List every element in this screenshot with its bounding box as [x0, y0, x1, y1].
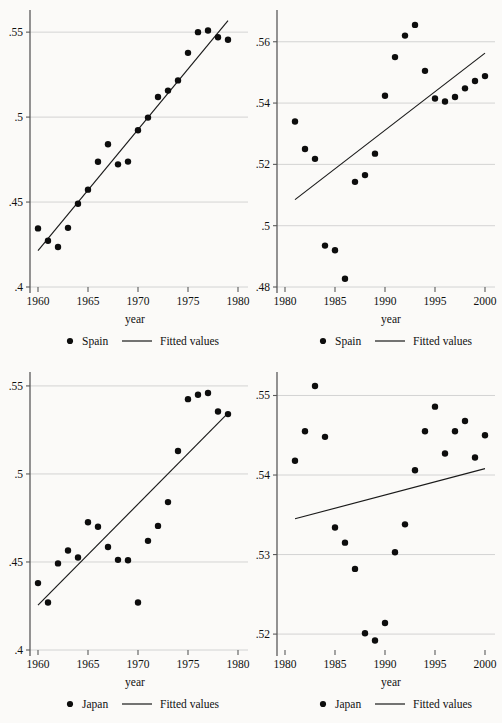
fitted-values-line [38, 413, 228, 605]
data-point [472, 78, 478, 84]
data-point [422, 68, 428, 74]
data-point [85, 519, 91, 525]
data-point [175, 448, 181, 454]
data-point [452, 428, 458, 434]
panel-top-left-svg: .4.45.5.55 19601965197019751980 year Spa… [0, 0, 251, 360]
data-point [115, 557, 121, 563]
xtick-label: 1990 [374, 295, 397, 307]
data-point [482, 432, 488, 438]
ytick-labels-bottom-right: .52.53.54.55 [256, 389, 271, 640]
data-point [462, 85, 468, 91]
legend-marker-icon [67, 701, 73, 707]
data-point [155, 523, 161, 529]
data-point [312, 156, 318, 162]
xtick-label: 1980 [274, 658, 297, 670]
data-point [215, 408, 221, 414]
data-point [145, 538, 151, 544]
data-point [382, 93, 388, 99]
data-point [205, 390, 211, 396]
legend-marker-icon [320, 338, 326, 344]
xtick-label: 1980 [227, 295, 250, 307]
data-point [185, 50, 191, 56]
fitline-top-left [38, 21, 228, 251]
legend-fit-label: Fitted values [160, 335, 220, 347]
xaxis-title-top-left: year [125, 313, 145, 326]
data-point [362, 172, 368, 178]
data-point [95, 159, 101, 165]
data-point [225, 411, 231, 417]
data-point [452, 94, 458, 100]
data-point [442, 450, 448, 456]
data-point [322, 242, 328, 248]
data-point [175, 77, 181, 83]
data-point [35, 225, 41, 231]
data-point [442, 98, 448, 104]
data-point [105, 544, 111, 550]
xtick-label: 2000 [474, 658, 497, 670]
ytick-label: .5 [14, 468, 23, 480]
xtick-label: 1965 [77, 295, 100, 307]
xtick-label: 1985 [324, 658, 347, 670]
ytick-label: .53 [256, 549, 271, 561]
data-point [215, 34, 221, 40]
legend-fit-label: Fitted values [160, 698, 220, 710]
datapoints-top-right [292, 22, 488, 282]
ytick-label: .54 [256, 97, 271, 109]
data-point [35, 580, 41, 586]
panel-top-right: .48.5.52.54.56 19801985199019952000 year… [251, 0, 502, 360]
ytick-label: .45 [9, 196, 24, 208]
xtick-label: 1995 [424, 295, 447, 307]
ytick-label: .55 [9, 26, 24, 38]
data-point [65, 225, 71, 231]
datapoints-bottom-left [35, 390, 231, 606]
data-point [55, 560, 61, 566]
legend-top-left: Spain Fitted values [67, 335, 220, 348]
data-point [352, 566, 358, 572]
xaxis-title-bottom-right: year [381, 676, 401, 689]
legend-series-label: Spain [82, 335, 108, 348]
panel-bottom-left-svg: .4.45.5.55 19601965197019751980 year Jap… [0, 360, 251, 723]
data-point [205, 27, 211, 33]
legend-bottom-right: Japan Fitted values [320, 698, 473, 711]
data-point [185, 396, 191, 402]
data-point [135, 127, 141, 133]
legend-series-label: Spain [335, 335, 361, 348]
panel-top-right-svg: .48.5.52.54.56 19801985199019952000 year… [251, 0, 502, 360]
xtick-label: 1980 [274, 295, 297, 307]
xtick-label: 1985 [324, 295, 347, 307]
data-point [312, 383, 318, 389]
xtick-labels-top-left: 19601965197019751980 [27, 295, 250, 307]
fitted-values-line [295, 53, 485, 200]
fitted-values-line [295, 469, 485, 519]
data-point [85, 186, 91, 192]
legend-fit-label: Fitted values [413, 335, 473, 347]
data-point [125, 557, 131, 563]
ytick-labels-top-right: .48.5.52.54.56 [256, 36, 271, 293]
data-point [422, 428, 428, 434]
fitline-top-right [295, 53, 485, 200]
xaxis-title-bottom-left: year [125, 676, 145, 689]
xtick-labels-bottom-left: 19601965197019751980 [27, 658, 250, 670]
data-point [392, 54, 398, 60]
data-point [165, 87, 171, 93]
panel-bottom-right: .52.53.54.55 19801985199019952000 year J… [251, 360, 502, 723]
data-point [125, 158, 131, 164]
data-point [342, 539, 348, 545]
gridlines-top-left [30, 32, 248, 287]
data-point [292, 118, 298, 124]
legend-series-label: Japan [82, 698, 108, 711]
ytick-label: .52 [256, 158, 271, 170]
fitline-bottom-right [295, 469, 485, 519]
data-point [75, 554, 81, 560]
legend-fit-label: Fitted values [413, 698, 473, 710]
ytick-label: .55 [9, 380, 24, 392]
ytick-labels-top-left: .4.45.5.55 [9, 26, 24, 293]
xtick-label: 1970 [127, 295, 150, 307]
data-point [392, 549, 398, 555]
data-point [402, 521, 408, 527]
panel-top-left: .4.45.5.55 19601965197019751980 year Spa… [0, 0, 251, 360]
xtick-label: 1975 [177, 658, 200, 670]
axes-bottom-right [273, 372, 485, 656]
data-point [115, 161, 121, 167]
data-point [55, 244, 61, 250]
